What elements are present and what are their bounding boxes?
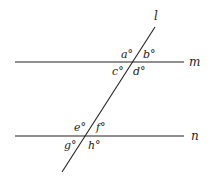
label-l: l (154, 9, 158, 23)
diagram-canvas: l m n a° b° c° d° e° f° g° h° (0, 0, 208, 178)
angle-f: f° (95, 121, 106, 134)
label-n: n (191, 129, 199, 143)
angle-b: b° (143, 48, 156, 61)
label-m: m (189, 55, 200, 69)
angle-g: g° (64, 139, 77, 152)
angle-e: e° (74, 121, 86, 134)
angle-a: a° (121, 48, 133, 61)
angle-c: c° (112, 65, 124, 78)
angle-d: d° (133, 65, 146, 78)
angle-h: h° (88, 139, 101, 152)
